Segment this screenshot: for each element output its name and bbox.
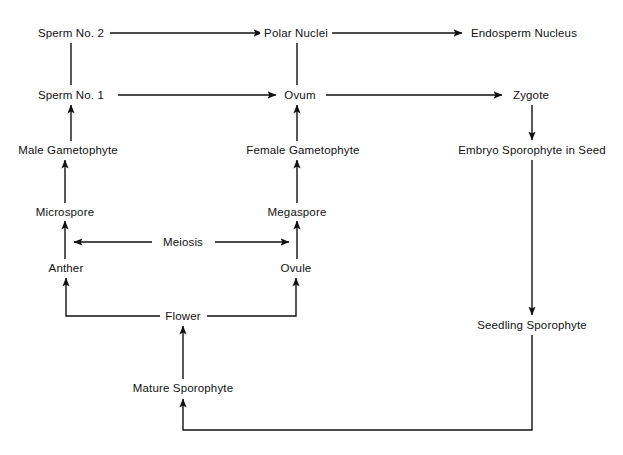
edge-flower-to-ovule	[207, 278, 296, 316]
node-meiosis: Meiosis	[159, 236, 207, 249]
node-megaspore: Megaspore	[264, 206, 331, 219]
node-female-gametophyte: Female Gametophyte	[242, 144, 363, 157]
node-male-gametophyte: Male Gametophyte	[14, 144, 122, 157]
edge-flower-to-anther	[66, 278, 160, 316]
node-embryo-sporophyte-in-seed: Embryo Sporophyte in Seed	[454, 144, 610, 157]
node-ovule: Ovule	[277, 262, 316, 275]
node-zygote: Zygote	[509, 89, 553, 102]
node-sperm-no-1: Sperm No. 1	[34, 89, 108, 102]
node-ovum: Ovum	[280, 89, 319, 102]
node-sperm-no-2: Sperm No. 2	[34, 27, 108, 40]
node-anther: Anther	[45, 262, 88, 275]
diagram-edges-layer	[0, 0, 623, 455]
node-polar-nuclei: Polar Nuclei	[260, 27, 332, 40]
node-seedling-sporophyte: Seedling Sporophyte	[473, 319, 591, 332]
node-flower: Flower	[161, 310, 204, 323]
node-mature-sporophyte: Mature Sporophyte	[129, 382, 237, 395]
life-cycle-diagram: Sperm No. 2 Polar Nuclei Endosperm Nucle…	[0, 0, 623, 455]
node-microspore: Microspore	[32, 206, 98, 219]
node-endosperm-nucleus: Endosperm Nucleus	[467, 27, 581, 40]
